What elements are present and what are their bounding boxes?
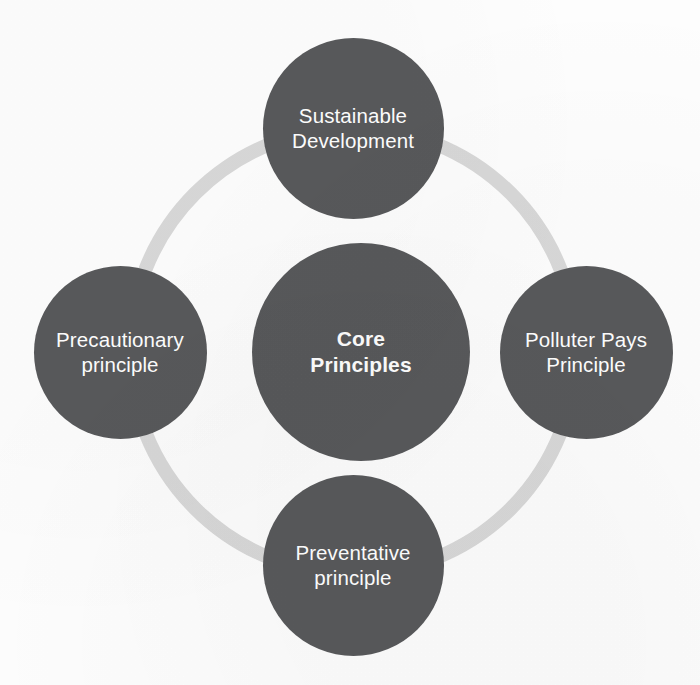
- node-precautionary-principle[interactable]: Precautionary principle: [34, 266, 207, 439]
- node-polluter-pays-principle[interactable]: Polluter Pays Principle: [500, 266, 673, 439]
- core-principles-diagram: Precautionary principle Polluter Pays Pr…: [0, 0, 700, 685]
- node-preventative-principle[interactable]: Preventative principle: [263, 475, 444, 656]
- node-label-sustainable-development: Sustainable Development: [270, 103, 437, 153]
- node-label-precautionary-principle: Precautionary principle: [40, 327, 199, 377]
- node-label-preventative-principle: Preventative principle: [270, 540, 437, 590]
- node-label-polluter-pays-principle: Polluter Pays Principle: [506, 327, 665, 377]
- node-sustainable-development[interactable]: Sustainable Development: [263, 38, 444, 219]
- node-core-principles[interactable]: Core Principles: [252, 243, 470, 461]
- node-label-core-principles: Core Principles: [261, 326, 462, 377]
